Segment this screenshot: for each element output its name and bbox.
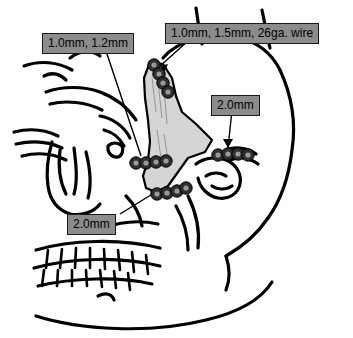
callout-frontozygomatic-lower: 1.0mm, 1.2mm (42, 33, 134, 54)
callout-zygomaticomaxillary-buttress: 2.0mm (67, 214, 116, 235)
leader-frontozygomatic-lower (105, 48, 141, 156)
zygoma-shaded-region (143, 62, 212, 192)
callout-zygomatic-arch: 2.0mm (211, 95, 260, 116)
leader-frontozygomatic-upper (160, 41, 188, 66)
skull-fixation-diagram: 1.0mm, 1.2mm 1.0mm, 1.5mm, 26ga. wire 2.… (0, 0, 353, 338)
callout-frontozygomatic-upper: 1.0mm, 1.5mm, 26ga. wire (165, 23, 319, 44)
